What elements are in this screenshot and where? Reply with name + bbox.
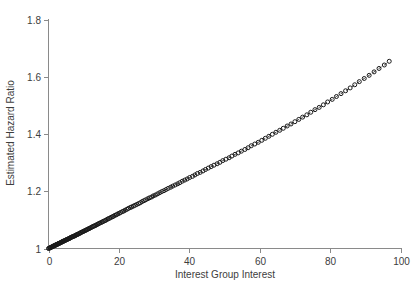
y-tick-label: 1.4 (27, 129, 41, 140)
hazard-ratio-scatter-plot: 11.21.41.61.8 020406080100 Interest Grou… (0, 0, 416, 292)
x-tick-label: 100 (393, 256, 410, 267)
x-tick-label: 20 (114, 256, 126, 267)
x-tick-label: 40 (184, 256, 196, 267)
y-axis-title: Estimated Hazard Ratio (5, 80, 16, 186)
x-tick-label: 80 (325, 256, 337, 267)
x-tick-label: 0 (47, 256, 53, 267)
y-tick-label: 1.6 (27, 72, 41, 83)
x-axis-title: Interest Group Interest (175, 269, 275, 280)
chart-figure: 11.21.41.61.8 020406080100 Interest Grou… (0, 0, 416, 292)
y-tick-label: 1.8 (27, 15, 41, 26)
y-tick-label: 1.2 (27, 186, 41, 197)
x-tick-label: 60 (255, 256, 267, 267)
y-tick-label: 1 (35, 244, 41, 255)
